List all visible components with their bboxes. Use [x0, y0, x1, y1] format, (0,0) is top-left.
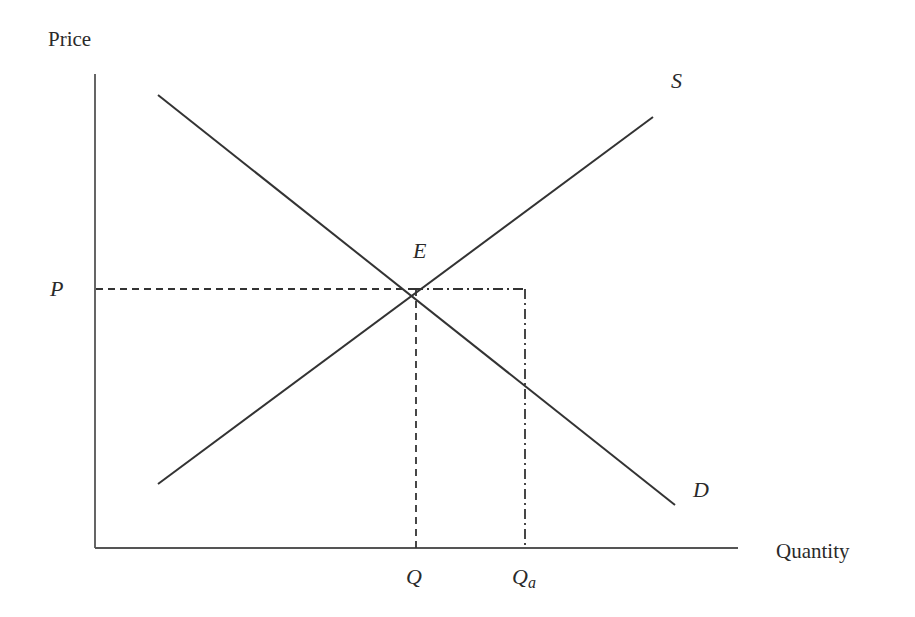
- equilibrium-label: E: [412, 238, 427, 263]
- quantity-tick-label: Q: [406, 564, 422, 589]
- supply-demand-diagram: Price Quantity S D E P Q Qa: [0, 0, 915, 617]
- demand-label: D: [692, 477, 709, 502]
- x-axis-label: Quantity: [776, 539, 850, 563]
- supply-label: S: [671, 68, 682, 93]
- demand-curve: [158, 95, 675, 505]
- price-tick-label: P: [49, 276, 63, 301]
- quantity-a-subscript: a: [528, 574, 536, 591]
- y-axis-label: Price: [48, 27, 91, 51]
- quantity-a-main: Q: [512, 564, 528, 589]
- quantity-a-tick-label: Qa: [512, 564, 536, 591]
